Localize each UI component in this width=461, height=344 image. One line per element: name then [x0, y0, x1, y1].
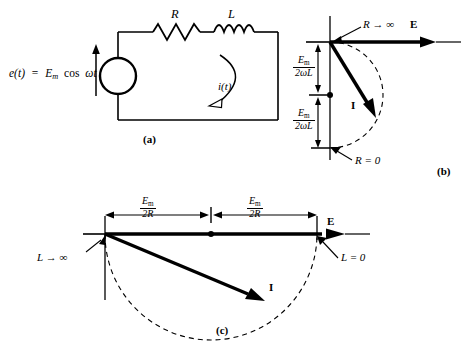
- equals-sign: =: [28, 67, 43, 79]
- dimension-1-denominator-c: 2R: [140, 208, 156, 220]
- resistor: [153, 24, 200, 40]
- figure-root: e(t) = Em cos ωt R L i(t) (a) E I R → ∞ …: [0, 0, 461, 344]
- condition-l-infinity-c: L → ∞: [37, 252, 67, 263]
- dimension-2-numerator-b: Em: [293, 108, 315, 120]
- leader-r-zero-b: [337, 151, 352, 160]
- current-arrow-head: [209, 99, 222, 108]
- dimension-arrow-2-left-c: [213, 212, 222, 219]
- source-e-of-t: e(t): [9, 67, 25, 79]
- caption-a: (a): [143, 134, 156, 145]
- e-phasor-arrowhead-b: [420, 37, 436, 48]
- dimension-label-1-c: Em 2R: [140, 196, 156, 220]
- caption-b: (b): [437, 166, 450, 177]
- locus-center-dot-c: [208, 231, 214, 237]
- i-phasor-label-c: I: [269, 282, 273, 293]
- i-phasor-shaft-c: [105, 234, 248, 294]
- i-phasor-shaft-b: [330, 42, 368, 104]
- dimension-arrow-2-right-c: [308, 212, 317, 219]
- cos-operator: cos: [61, 67, 79, 79]
- resistor-label: R: [171, 8, 179, 21]
- leader-l-infinity-c: [86, 240, 101, 252]
- dimension-1-denominator-b: 2ωL: [293, 67, 315, 79]
- dimension-2-numerator-c: Em: [247, 196, 263, 208]
- dimension-arrow-1-right-c: [200, 212, 209, 219]
- leader-l-zero-c: [323, 242, 338, 258]
- leader-r-infinity-head-b: [331, 36, 342, 43]
- dimension-label-1-b: Em 2ωL: [293, 55, 315, 79]
- current-arc: [218, 55, 236, 103]
- dimension-label-2-c: Em 2R: [247, 196, 263, 220]
- leader-l-infinity-head-c: [99, 234, 106, 245]
- source-polarity-arrow-head: [92, 44, 100, 54]
- dimension-arrow-2-top-b: [315, 97, 321, 105]
- dimension-1-numerator-b: Em: [293, 55, 315, 67]
- dimension-1-numerator-c: Em: [140, 196, 156, 208]
- e-phasor-label-c: E: [327, 216, 334, 227]
- dimension-label-2-b: Em 2ωL: [293, 108, 315, 132]
- e-phasor-label-b: E: [410, 19, 417, 30]
- condition-l-zero-c: L = 0: [341, 252, 365, 263]
- locus-center-dot-b: [327, 92, 333, 98]
- omega-t: ωt: [82, 67, 96, 79]
- dimension-arrow-2-bottom-b: [315, 140, 321, 148]
- leader-r-infinity-b: [338, 27, 361, 39]
- figure-svg: [0, 0, 461, 344]
- dimension-arrow-1-top-b: [315, 44, 321, 52]
- dimension-2-denominator-c: 2R: [247, 208, 263, 220]
- condition-r-zero-b: R = 0: [355, 155, 380, 166]
- caption-c: (c): [216, 325, 228, 336]
- locus-semicircle-c: [105, 234, 317, 340]
- dimension-arrow-1-bottom-b: [315, 85, 321, 93]
- inductor-label: L: [228, 8, 235, 21]
- inductor: [214, 25, 254, 32]
- voltage-source-symbol: [100, 58, 136, 94]
- dimension-2-denominator-b: 2ωL: [293, 120, 315, 132]
- dimension-arrow-1-left-c: [105, 212, 114, 219]
- i-phasor-arrowhead-c: [245, 288, 265, 301]
- phasor-diagram-b: [306, 16, 461, 160]
- source-expression-label: e(t) = Em cos ωt: [9, 68, 97, 81]
- circuit-diagram: [92, 24, 278, 120]
- i-phasor-label-b: I: [351, 100, 355, 111]
- source-em-subscript: m: [52, 72, 58, 81]
- leader-l-zero-head-c: [317, 236, 327, 245]
- e-phasor-arrowhead-c: [326, 229, 345, 240]
- condition-r-infinity-b: R → ∞: [363, 19, 394, 30]
- current-label: i(t): [218, 81, 231, 92]
